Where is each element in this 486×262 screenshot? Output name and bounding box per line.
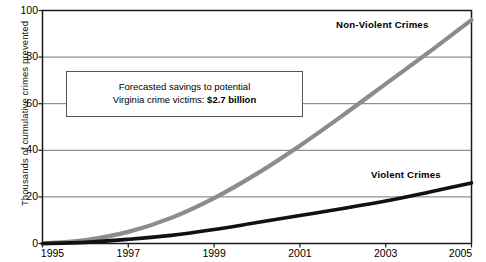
x-tick-1995: 1995 [41,248,64,259]
x-tick-2001: 2001 [288,248,311,259]
series-lines [43,20,472,244]
forecast-callout-box: Forecasted savings to potential Virginia… [66,71,303,117]
callout-line-2-prefix: Virginia crime victims: [113,94,207,105]
series-line-non-violent-crimes [43,20,472,244]
x-tick-2005: 2005 [449,248,472,259]
callout-amount: $2.7 billion [207,94,256,105]
x-tick-1999: 1999 [202,248,225,259]
plot-frame [43,11,472,244]
plot-area [0,0,486,262]
x-axis-tick-labels: 199519971999200120032005 [0,246,486,262]
crime-prevention-line-chart: Thousands of cumulative crimes prevented… [0,0,486,262]
x-tick-1997: 1997 [117,248,140,259]
series-line-violent-crimes [43,183,472,244]
callout-line-2: Virginia crime victims: $2.7 billion [113,94,256,107]
x-tick-2003: 2003 [374,248,397,259]
series-label-non-violent-crimes: Non-Violent Crimes [336,19,428,30]
callout-line-1: Forecasted savings to potential [119,81,251,94]
series-label-violent-crimes: Violent Crimes [371,169,441,180]
axis-tickmarks [39,11,472,248]
